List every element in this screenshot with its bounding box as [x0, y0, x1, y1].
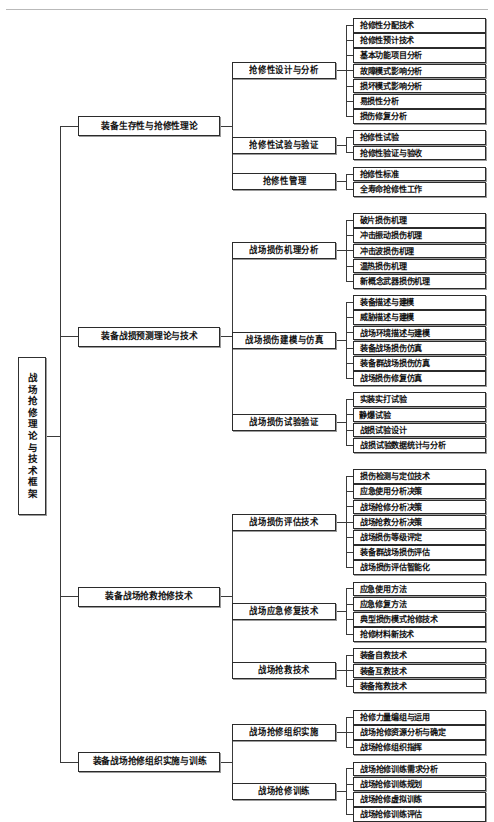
category-node-label: 战场损伤评估技术 — [249, 518, 319, 527]
leaf-node-label: 故障模式影响分析 — [360, 67, 422, 76]
leaf-node: 战场抢救分析决策 — [353, 515, 486, 530]
leaf-node: 易损性分析 — [353, 94, 486, 109]
leaf-node-label: 装备群战场损伤仿真 — [360, 359, 430, 368]
category-node-label: 战场应急修复技术 — [249, 607, 319, 616]
leaf-node: 战场抢修训练评估 — [353, 807, 486, 822]
leaf-node: 抢修材料新技术 — [353, 627, 486, 642]
leaf-node: 温热损伤机理 — [353, 259, 486, 274]
leaf-node-label: 抢修性试验 — [360, 133, 399, 142]
leaf-node: 战损试验数据统计与分析 — [353, 438, 486, 453]
branch-node: 装备生存性与抢修性理论 — [78, 116, 220, 136]
root-node: 战场抢修理论与技术框架 — [18, 357, 46, 515]
category-node-label: 抢修性试验与验证 — [249, 141, 319, 150]
branch-node-label: 装备生存性与抢修性理论 — [101, 122, 197, 131]
leaf-node-label: 抢修性分配技术 — [360, 21, 414, 30]
leaf-node-label: 战场抢修组织指挥 — [360, 743, 422, 752]
leaf-node: 故障模式影响分析 — [353, 64, 486, 79]
leaf-node-label: 新概念武器损伤机理 — [360, 277, 430, 286]
leaf-node-label: 应急修复方法 — [360, 600, 407, 609]
leaf-node: 战场抢修分析决策 — [353, 500, 486, 515]
leaf-node-label: 装备自救技术 — [360, 651, 407, 660]
category-node: 战场损伤试验验证 — [232, 414, 336, 431]
leaf-node: 战场损伤修复仿真 — [353, 371, 486, 386]
branch-node-label: 装备战场抢修组织实施与训练 — [92, 757, 205, 766]
leaf-node: 战场抢修组织指挥 — [353, 740, 486, 755]
branch-node: 装备战损预测理论与技术 — [78, 327, 220, 347]
leaf-node-label: 战场抢修训练需求分析 — [360, 765, 438, 774]
category-node-label: 战场损伤机理分析 — [249, 246, 319, 255]
branch-node: 装备战场抢救抢修技术 — [78, 587, 220, 607]
leaf-node: 应急使用方法 — [353, 582, 486, 597]
leaf-node: 战损试验设计 — [353, 423, 486, 438]
leaf-node-label: 装备互救技术 — [360, 667, 407, 676]
leaf-node-label: 应急使用方法 — [360, 585, 407, 594]
category-node-label: 战场抢修组织实施 — [249, 728, 319, 737]
branch-node-label: 装备战损预测理论与技术 — [101, 332, 197, 341]
leaf-node-label: 装备拖救技术 — [360, 682, 407, 691]
leaf-node-label: 抢修力量编组与运用 — [360, 713, 430, 722]
leaf-node-label: 战损试验数据统计与分析 — [360, 441, 445, 450]
category-node: 战场抢修训练 — [232, 783, 336, 800]
leaf-node: 冲击振动损伤机理 — [353, 228, 486, 243]
leaf-node-label: 损坏模式影响分析 — [360, 82, 422, 91]
leaf-node: 战场环境描述与建模 — [353, 326, 486, 341]
category-node: 战场损伤建模与仿真 — [232, 332, 336, 349]
leaf-node: 应急使用分析决策 — [353, 484, 486, 499]
leaf-node: 抢修性分配技术 — [353, 18, 486, 33]
leaf-node: 冲击波损伤机理 — [353, 244, 486, 259]
leaf-node: 战场抢修训练规划 — [353, 777, 486, 792]
leaf-node: 装备群战场损伤评估 — [353, 545, 486, 560]
leaf-node-label: 基本功能项目分析 — [360, 51, 422, 60]
leaf-node-label: 典型损伤模式抢修技术 — [360, 615, 438, 624]
leaf-node-label: 装备战场损伤仿真 — [360, 344, 422, 353]
leaf-node: 装备拖救技术 — [353, 679, 486, 694]
leaf-node-label: 温热损伤机理 — [360, 262, 407, 271]
category-node: 抢修性管理 — [232, 173, 336, 190]
leaf-node-label: 战场环境描述与建模 — [360, 329, 430, 338]
category-node-label: 战场损伤试验验证 — [249, 418, 319, 427]
branch-node-label: 装备战场抢救抢修技术 — [105, 592, 192, 601]
leaf-node-label: 抢修性预计技术 — [360, 36, 414, 45]
leaf-node: 静爆试验 — [353, 408, 486, 423]
leaf-node: 战场抢修资源分析与确定 — [353, 725, 486, 740]
leaf-node: 装备描述与建模 — [353, 295, 486, 310]
leaf-node: 应急修复方法 — [353, 597, 486, 612]
leaf-node: 损坏模式影响分析 — [353, 79, 486, 94]
leaf-node-label: 实装实打试验 — [360, 395, 407, 404]
leaf-node: 抢修性验证与验收 — [353, 146, 486, 161]
category-node: 抢修性设计与分析 — [232, 62, 336, 79]
category-node: 战场损伤机理分析 — [232, 242, 336, 259]
category-node-label: 抢修性设计与分析 — [249, 66, 319, 75]
leaf-node: 抢修力量编组与运用 — [353, 710, 486, 725]
leaf-node-label: 战场损伤评估智能化 — [360, 563, 430, 572]
leaf-node: 新概念武器损伤机理 — [353, 274, 486, 289]
leaf-node-label: 装备群战场损伤评估 — [360, 548, 430, 557]
leaf-node: 战场抢修虚拟训练 — [353, 792, 486, 807]
leaf-node-label: 静爆试验 — [359, 411, 390, 420]
leaf-node: 破片损伤机理 — [353, 213, 486, 228]
leaf-node-label: 应急使用分析决策 — [360, 487, 422, 496]
leaf-node: 损伤修复分析 — [353, 109, 486, 124]
leaf-node: 基本功能项目分析 — [353, 48, 486, 63]
leaf-node: 装备自救技术 — [353, 648, 486, 663]
leaf-node-label: 易损性分析 — [360, 97, 399, 106]
category-node-label: 战场抢救技术 — [258, 666, 310, 675]
category-node-label: 战场抢修训练 — [258, 787, 310, 796]
category-node: 战场应急修复技术 — [232, 603, 336, 620]
category-node-label: 抢修性管理 — [262, 177, 306, 186]
leaf-node-label: 抢修性标准 — [360, 170, 399, 179]
leaf-node-label: 冲击振动损伤机理 — [360, 231, 422, 240]
leaf-node-label: 战场抢修训练规划 — [360, 780, 422, 789]
leaf-node-label: 抢修性验证与验收 — [360, 149, 422, 158]
category-node: 战场抢救技术 — [232, 662, 336, 679]
leaf-node-label: 冲击波损伤机理 — [360, 247, 414, 256]
leaf-node: 抢修性试验 — [353, 130, 486, 145]
leaf-node-label: 装备描述与建模 — [360, 298, 414, 307]
leaf-node: 装备群战场损伤仿真 — [353, 356, 486, 371]
category-node: 战场抢修组织实施 — [232, 724, 336, 741]
leaf-node-label: 损伤修复分析 — [360, 112, 407, 121]
leaf-node: 装备互救技术 — [353, 664, 486, 679]
leaf-node: 战场抢修训练需求分析 — [353, 762, 486, 777]
leaf-node-label: 战场抢修分析决策 — [360, 503, 422, 512]
leaf-node: 抢修性预计技术 — [353, 33, 486, 48]
